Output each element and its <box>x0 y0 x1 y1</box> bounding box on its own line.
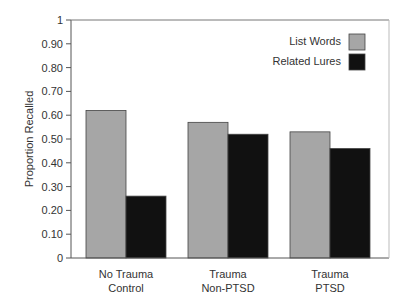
legend-label: List Words <box>289 35 341 47</box>
bars <box>86 110 370 258</box>
bar-list-words <box>188 122 228 258</box>
bar-related-lures <box>228 134 268 258</box>
bar-list-words <box>290 132 330 258</box>
x-category-label: Control <box>108 282 143 294</box>
bar-related-lures <box>330 149 370 258</box>
y-tick-label: 0.30 <box>42 181 63 193</box>
y-tick-label: 1 <box>57 14 63 26</box>
y-axis-title: Proportion Recalled <box>23 91 35 188</box>
y-tick-label: 0.20 <box>42 204 63 216</box>
y-tick-label: 0.40 <box>42 157 63 169</box>
y-tick-label: 0.70 <box>42 85 63 97</box>
y-tick-label: 0 <box>57 252 63 264</box>
y-tick-label: 0.90 <box>42 38 63 50</box>
x-category-label: No Trauma <box>99 268 154 280</box>
x-category-label: PTSD <box>315 282 344 294</box>
y-tick-label: 0.60 <box>42 109 63 121</box>
y-axis: 00.100.200.300.400.500.600.700.800.901 <box>42 14 71 264</box>
legend-label: Related Lures <box>273 55 342 67</box>
x-category-label: Trauma <box>311 268 349 280</box>
legend: List WordsRelated Lures <box>273 34 366 70</box>
legend-swatch <box>349 34 365 50</box>
x-category-label: Non-PTSD <box>201 282 254 294</box>
legend-swatch <box>349 54 365 70</box>
bar-related-lures <box>126 196 166 258</box>
bar-list-words <box>86 110 126 258</box>
x-category-label: Trauma <box>209 268 247 280</box>
y-tick-label: 0.80 <box>42 62 63 74</box>
y-tick-label: 0.10 <box>42 228 63 240</box>
y-tick-label: 0.50 <box>42 133 63 145</box>
x-axis-labels: No TraumaControlTraumaNon-PTSDTraumaPTSD <box>99 268 350 294</box>
bar-chart: 00.100.200.300.400.500.600.700.800.901 N… <box>0 0 408 304</box>
